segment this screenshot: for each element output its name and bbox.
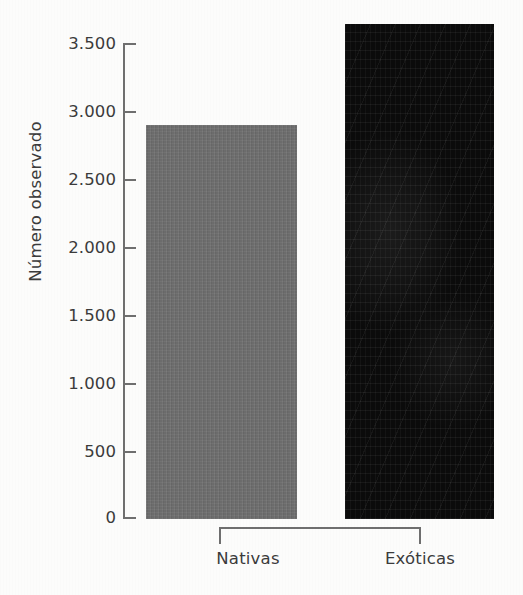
bar-nativas — [146, 125, 297, 519]
bar-exoticas-fill — [345, 24, 494, 519]
bar-chart-figure: 3.500 3.000 2.500 2.000 1.500 1.000 500 … — [0, 0, 523, 595]
x-axis-label-exoticas: Exóticas — [350, 549, 490, 568]
bar-nativas-fill — [146, 125, 297, 519]
plot-area — [0, 0, 523, 595]
bar-exoticas — [345, 24, 494, 519]
x-axis-tick-nativas — [219, 527, 221, 544]
x-axis-label-nativas: Nativas — [178, 549, 318, 568]
x-axis-tick-exoticas — [419, 527, 421, 544]
x-axis-bracket-line — [219, 527, 421, 529]
